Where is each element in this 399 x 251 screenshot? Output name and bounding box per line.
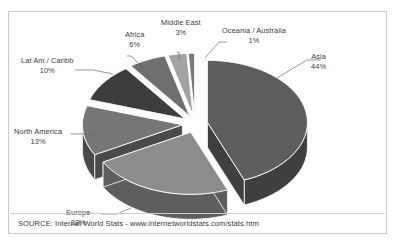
slice-label-middle-east-name: Middle East — [161, 18, 201, 27]
slice-label-north-america-pct: 13% — [14, 137, 62, 147]
slice-label-middle-east: Middle East 3% — [161, 18, 201, 37]
slice-label-africa-name: Africa — [125, 30, 145, 39]
source-divider — [10, 213, 385, 214]
pie-chart-plot — [9, 12, 388, 235]
slice-label-middle-east-pct: 3% — [161, 28, 201, 38]
slice-label-lat-am-name: Lat Am / Caribb — [21, 56, 73, 65]
slice-label-north-america-name: North America — [14, 127, 62, 136]
slice-label-asia-pct: 44% — [311, 62, 326, 72]
slice-label-north-america: North America 13% — [14, 127, 62, 146]
chart-frame: Asia 44% Oceania / Australia 1% Middle E… — [8, 11, 387, 234]
slice-label-asia: Asia 44% — [311, 52, 326, 71]
slice-label-lat-am-pct: 10% — [21, 66, 73, 76]
slice-label-africa: Africa 6% — [125, 30, 145, 49]
slice-label-oceania: Oceania / Australia 1% — [222, 26, 286, 45]
source-note: SOURCE: Internet World Stats - www.inter… — [18, 219, 259, 228]
pie-chart-svg — [9, 12, 388, 235]
slice-label-oceania-name: Oceania / Australia — [222, 26, 286, 35]
slice-label-africa-pct: 6% — [125, 40, 145, 50]
slice-label-lat-am: Lat Am / Caribb 10% — [21, 56, 73, 75]
slice-label-oceania-pct: 1% — [222, 36, 286, 46]
slice-label-asia-name: Asia — [311, 52, 326, 61]
